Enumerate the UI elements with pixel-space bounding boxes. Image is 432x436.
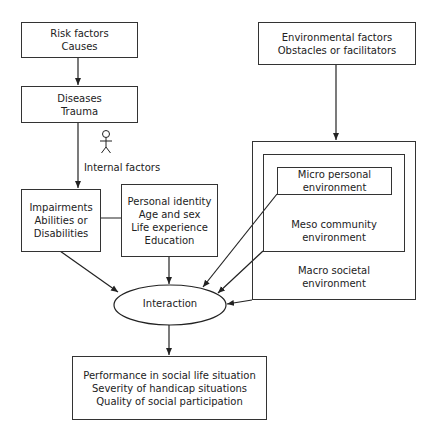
meso-label: Meso community environment: [263, 218, 405, 244]
micro-box: Micro personal environment: [277, 167, 392, 195]
micro-line-1: Micro personal: [298, 168, 371, 181]
arrow-macro-to-interaction: [227, 300, 252, 304]
personal-identity-line-2: Age and sex: [139, 208, 201, 221]
environmental-factors-line-2: Obstacles or facilitators: [278, 44, 397, 57]
outcomes-line-1: Performance in social life situation: [83, 369, 255, 382]
impairments-line-2: Abilities or: [35, 214, 88, 227]
impairments-line-1: Impairments: [29, 201, 92, 214]
risk-factors-box: Risk factors Causes: [21, 22, 138, 58]
diseases-line-2: Trauma: [61, 105, 98, 118]
internal-factors-label: Internal factors: [82, 161, 162, 174]
outcomes-line-3: Quality of social participation: [96, 395, 243, 408]
macro-line-1: Macro societal: [252, 264, 416, 277]
macro-line-2: environment: [252, 277, 416, 290]
risk-factors-line-2: Causes: [61, 40, 97, 53]
environmental-factors-line-1: Environmental factors: [282, 31, 392, 44]
macro-label: Macro societal environment: [252, 264, 416, 290]
diseases-line-1: Diseases: [57, 92, 102, 105]
interaction-label: Interaction: [114, 298, 226, 309]
meso-line-2: environment: [263, 231, 405, 244]
diseases-box: Diseases Trauma: [21, 86, 138, 123]
impairments-line-3: Disabilities: [34, 227, 89, 240]
outcomes-box: Performance in social life situation Sev…: [72, 356, 267, 420]
personal-identity-line-3: Life experience: [131, 221, 208, 234]
personal-identity-line-1: Personal identity: [128, 195, 212, 208]
risk-factors-line-1: Risk factors: [50, 27, 108, 40]
personal-identity-box: Personal identity Age and sex Life exper…: [121, 184, 218, 257]
personal-identity-line-4: Education: [145, 234, 195, 247]
meso-line-1: Meso community: [263, 218, 405, 231]
environmental-factors-box: Environmental factors Obstacles or facil…: [258, 22, 416, 65]
arrow-impairments-to-interaction: [60, 251, 118, 292]
outcomes-line-2: Severity of handicap situations: [92, 382, 247, 395]
impairments-box: Impairments Abilities or Disabilities: [21, 189, 101, 252]
person-figure-icon: [100, 131, 112, 154]
micro-line-2: environment: [303, 181, 367, 194]
